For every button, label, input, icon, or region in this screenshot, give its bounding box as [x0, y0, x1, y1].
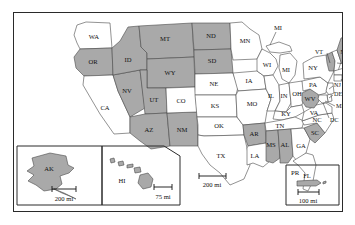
label-GA: GA — [296, 142, 306, 149]
shape-HI-big-island — [138, 173, 153, 189]
label-MI-upper: MI — [274, 24, 282, 31]
label-SD: SD — [208, 57, 217, 64]
label-ME: ME — [340, 49, 342, 55]
label-IN: IN — [281, 92, 288, 99]
label-NY: NY — [308, 64, 318, 71]
label-NJ: NJ — [334, 82, 341, 88]
label-NC: NC — [312, 116, 322, 123]
label-ND: ND — [206, 32, 216, 39]
shape-HI-oahu — [118, 161, 124, 166]
us-choropleth-map: .st{stroke:#4a4a4a;stroke-width:0.6;} .s… — [0, 0, 355, 225]
label-UT: UT — [150, 96, 159, 103]
label-FL: FL — [303, 172, 311, 179]
state-MI-upper — [266, 42, 292, 53]
label-CA: CA — [100, 104, 109, 111]
label-AK: AK — [44, 165, 54, 172]
hawaii-scale-label: 75 mi — [155, 193, 170, 200]
label-PA: PA — [309, 81, 317, 88]
map-canvas: .st{stroke:#4a4a4a;stroke-width:0.6;} .s… — [14, 13, 342, 211]
label-NM: NM — [177, 126, 188, 133]
label-IL: IL — [268, 92, 274, 99]
label-VT: VT — [315, 49, 323, 55]
label-ID: ID — [125, 56, 132, 63]
state-TX — [198, 135, 250, 185]
map-frame-border: .st{stroke:#4a4a4a;stroke-width:0.6;} .s… — [13, 12, 343, 212]
shape-HI-molokai — [127, 164, 133, 168]
hawaii-inset: HI 75 mi — [102, 146, 180, 205]
label-KY: KY — [281, 110, 291, 117]
label-NV: NV — [122, 87, 132, 94]
puerto-rico-scale-label: 100 mi — [299, 197, 318, 204]
main-scale-label: 200 mi — [203, 181, 222, 188]
label-OK: OK — [214, 122, 224, 129]
label-MI-lower: MI — [282, 66, 290, 73]
label-WV: WV — [305, 95, 316, 102]
label-MO: MO — [247, 100, 258, 107]
label-VA: VA — [310, 109, 319, 116]
shape-HI-maui — [134, 167, 141, 173]
label-NE: NE — [210, 80, 219, 87]
label-OR: OR — [88, 58, 98, 65]
label-SC: SC — [311, 129, 320, 136]
label-TN: TN — [276, 122, 285, 129]
label-LA: LA — [251, 152, 260, 159]
shape-PR-vieques — [323, 181, 326, 184]
label-AZ: AZ — [145, 126, 154, 133]
label-MD: MD — [336, 103, 342, 109]
label-DC: DC — [330, 117, 338, 123]
label-HI: HI — [119, 177, 126, 184]
shape-AK — [27, 153, 74, 191]
label-PR: PR — [291, 169, 300, 176]
label-WI: WI — [263, 61, 271, 68]
label-WY: WY — [165, 69, 176, 76]
state-CT — [334, 75, 342, 81]
label-WA: WA — [89, 33, 99, 40]
label-MT: MT — [160, 35, 170, 42]
state-MO — [236, 89, 271, 125]
alaska-scale-label: 200 mi — [55, 195, 74, 202]
label-CO: CO — [176, 97, 185, 104]
label-DE: DE — [334, 91, 342, 97]
shape-PR — [297, 180, 321, 186]
shape-HI-kauai — [110, 158, 115, 163]
label-OH: OH — [292, 90, 302, 97]
label-MN: MN — [240, 37, 251, 44]
alaska-inset: AK 200 mi — [17, 146, 102, 205]
label-AR: AR — [249, 130, 259, 137]
label-TX: TX — [217, 152, 226, 159]
label-IA: IA — [246, 77, 253, 84]
label-KS: KS — [211, 102, 220, 109]
label-AL: AL — [281, 141, 290, 148]
label-MS: MS — [266, 141, 276, 148]
